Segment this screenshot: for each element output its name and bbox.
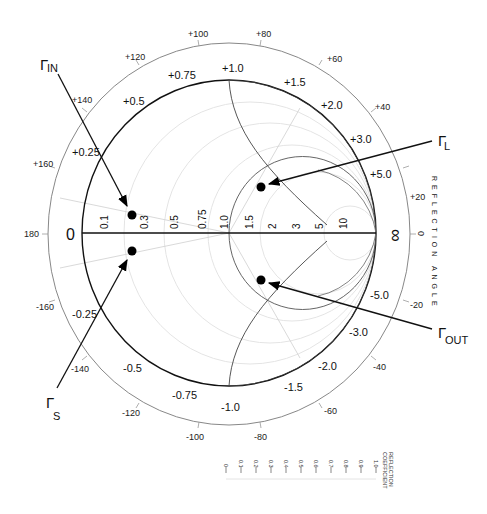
- svg-text:-5.0: -5.0: [370, 289, 389, 301]
- svg-text:0.8: 0.8: [343, 460, 349, 468]
- reflection-coefficient-scale: 0 0.1 0.2 0.3 0.4 0.5 0.6 0.7 0.8 0.9 1.…: [223, 452, 394, 489]
- gamma-out-point: [257, 276, 266, 285]
- svg-text:+1.0: +1.0: [222, 62, 244, 74]
- svg-text:0.6: 0.6: [313, 460, 319, 468]
- svg-text:+0.25: +0.25: [72, 146, 100, 158]
- svg-text:+160: +160: [33, 159, 53, 169]
- svg-text:0.4: 0.4: [283, 460, 289, 468]
- svg-text:2: 2: [267, 223, 278, 229]
- svg-text:-40: -40: [373, 362, 386, 372]
- svg-text:0: 0: [416, 231, 426, 236]
- svg-text:0.5: 0.5: [169, 215, 180, 229]
- svg-text:+1.5: +1.5: [284, 76, 306, 88]
- gamma-s-label: Γ S: [46, 394, 60, 422]
- svg-text:0.75: 0.75: [197, 209, 208, 229]
- svg-text:+5.0: +5.0: [370, 168, 392, 180]
- svg-text:0.3: 0.3: [139, 215, 150, 229]
- negative-reactance-labels: -0.25 -0.5 -0.75 -1.0 -1.5 -2.0 -3.0 -5.…: [72, 289, 389, 413]
- svg-text:0.7: 0.7: [328, 460, 334, 468]
- gamma-in-point: [128, 211, 137, 220]
- svg-text:1.0: 1.0: [219, 215, 230, 229]
- gamma-s-point: [128, 247, 137, 256]
- svg-text:-60: -60: [324, 406, 337, 416]
- svg-text:+40: +40: [375, 102, 390, 112]
- angle-labels: +20 +40 +60 +80 +100 +120 +140 +160 -20 …: [24, 29, 426, 442]
- reflection-angle-title: REFLECTION ANGLE: [431, 176, 438, 310]
- svg-text:-0.75: -0.75: [172, 389, 197, 401]
- svg-text:-1.0: -1.0: [221, 401, 240, 413]
- svg-text:0.3: 0.3: [268, 460, 274, 468]
- svg-text:+120: +120: [125, 52, 145, 62]
- gamma-out-label: Γ OUT: [438, 324, 469, 346]
- svg-text:+140: +140: [72, 95, 92, 105]
- svg-text:0.2: 0.2: [253, 460, 259, 468]
- svg-text:IN: IN: [47, 62, 58, 74]
- resistance-labels: 0.1 0.3 0.5 0.75 1.0 1.5 2 3 5 10: [99, 209, 349, 229]
- svg-text:-160: -160: [36, 302, 54, 312]
- svg-text:+0.75: +0.75: [168, 69, 196, 81]
- real-axis-zero-label: 0: [66, 226, 75, 243]
- svg-text:3: 3: [291, 223, 302, 229]
- svg-text:0.9: 0.9: [358, 460, 364, 468]
- gamma-in-label: Γ IN: [40, 56, 58, 74]
- svg-text:+2.0: +2.0: [321, 99, 343, 111]
- svg-text:0: 0: [223, 464, 229, 467]
- svg-text:-3.0: -3.0: [349, 326, 368, 338]
- svg-text:+80: +80: [256, 29, 271, 39]
- svg-text:OUT: OUT: [445, 334, 469, 346]
- svg-text:-120: -120: [122, 408, 140, 418]
- svg-text:-2.0: -2.0: [318, 360, 337, 372]
- svg-text:+0.5: +0.5: [123, 95, 145, 107]
- svg-text:-140: -140: [71, 364, 89, 374]
- svg-text:COEFFICIENT: COEFFICIENT: [382, 452, 388, 489]
- svg-text:-100: -100: [186, 432, 204, 442]
- svg-text:L: L: [444, 140, 450, 152]
- gamma-l-point: [257, 183, 266, 192]
- svg-text:10: 10: [338, 217, 349, 229]
- svg-text:+100: +100: [188, 29, 208, 39]
- svg-text:0.1: 0.1: [99, 215, 110, 229]
- svg-text:+20: +20: [410, 192, 425, 202]
- svg-text:-0.25: -0.25: [72, 308, 97, 320]
- svg-text:-1.5: -1.5: [284, 381, 303, 393]
- svg-text:-20: -20: [410, 300, 423, 310]
- real-axis-infinity-label: ∞: [386, 229, 406, 242]
- svg-text:1.0: 1.0: [373, 460, 379, 468]
- svg-text:-0.5: -0.5: [123, 362, 142, 374]
- svg-text:Γ: Γ: [46, 394, 54, 411]
- gamma-l-label: Γ L: [438, 132, 450, 152]
- smith-chart: 0 ∞ 0.1 0.3 0.5 0.75 1.0 1.5 2 3 5 10 +0…: [0, 0, 487, 514]
- svg-text:0.5: 0.5: [298, 460, 304, 468]
- svg-text:-80: -80: [254, 432, 267, 442]
- svg-text:5: 5: [314, 223, 325, 229]
- svg-text:180: 180: [24, 229, 39, 239]
- svg-text:S: S: [53, 410, 60, 422]
- svg-text:+60: +60: [327, 54, 342, 64]
- svg-text:0.1: 0.1: [238, 460, 244, 468]
- svg-text:1.5: 1.5: [244, 215, 255, 229]
- svg-text:+3.0: +3.0: [350, 133, 372, 145]
